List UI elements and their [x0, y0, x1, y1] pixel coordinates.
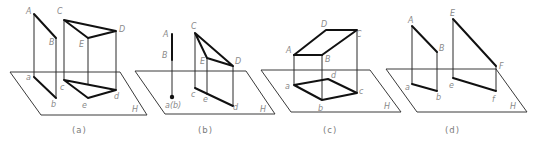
label-a: a — [405, 83, 410, 92]
label-b: b — [51, 100, 56, 109]
label-B: B — [162, 51, 168, 60]
label-E: E — [450, 9, 456, 18]
label-C: C — [57, 7, 63, 16]
label-A: A — [407, 16, 413, 25]
label-d: d — [331, 71, 337, 80]
label-a: a — [285, 82, 290, 91]
caption-b: (b) — [198, 125, 213, 135]
caption-d: (d) — [445, 125, 460, 135]
label-B: B — [325, 55, 331, 64]
label-d: d — [114, 92, 120, 101]
label-e: e — [203, 95, 208, 104]
figure-c: A B C D a b c d H (c) — [261, 20, 401, 135]
caption-a: (a) — [72, 125, 87, 135]
label-H: H — [384, 102, 390, 111]
label-A: A — [162, 30, 168, 39]
caption-c: (c) — [323, 125, 337, 135]
label-E: E — [200, 57, 206, 66]
label-a: a — [26, 73, 31, 82]
label-F: F — [499, 62, 504, 71]
figure-a: A B C D E a b c d e H (a) — [10, 7, 147, 135]
label-C: C — [356, 30, 362, 39]
label-D: D — [119, 25, 125, 34]
label-c: c — [191, 90, 196, 99]
label-H: H — [260, 105, 266, 114]
label-b: b — [436, 93, 441, 102]
label-c: c — [359, 87, 364, 96]
label-B: B — [49, 38, 55, 47]
figure-d: A B E F a b e f H (d) — [386, 9, 527, 135]
label-c: c — [60, 83, 65, 92]
label-d: d — [233, 103, 239, 112]
label-H: H — [510, 102, 516, 111]
point-ab — [170, 95, 174, 99]
label-C: C — [191, 22, 197, 31]
label-E: E — [79, 40, 85, 49]
label-e: e — [82, 101, 87, 110]
projection-diagram: A B C D E a b c d e H (a) A B C D E a(b)… — [0, 0, 534, 142]
label-H: H — [132, 105, 138, 114]
label-D: D — [235, 57, 241, 66]
label-A: A — [285, 46, 291, 55]
label-f: f — [492, 95, 496, 104]
figure-b: A B C D E a(b) c d e H (b) — [135, 22, 275, 135]
label-ab: a(b) — [165, 101, 181, 110]
label-e: e — [449, 81, 454, 90]
label-A: A — [25, 7, 31, 16]
label-D: D — [321, 20, 327, 29]
label-b: b — [318, 104, 323, 113]
label-B: B — [439, 44, 445, 53]
